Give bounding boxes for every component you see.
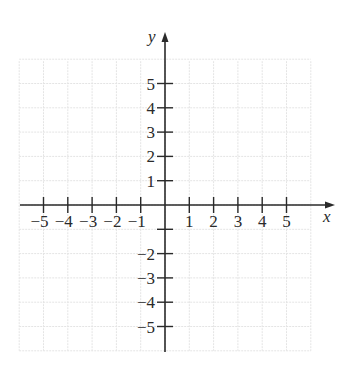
y-tick-label: 5	[147, 75, 156, 94]
y-tick-label: 1	[147, 172, 156, 191]
x-tick-label: −5	[30, 212, 48, 231]
x-tick-label: 3	[234, 212, 243, 231]
x-tick-label: 2	[209, 212, 218, 231]
y-tick-label: −2	[137, 245, 155, 264]
y-tick-label: 2	[147, 147, 156, 166]
y-tick-label: 4	[147, 99, 156, 118]
y-tick-label: −4	[137, 293, 156, 312]
x-tick-label: −3	[79, 212, 97, 231]
x-tick-label: 5	[282, 212, 291, 231]
y-tick-label: −3	[137, 269, 155, 288]
y-axis-label: y	[146, 27, 156, 46]
coordinate-plane: x y −5−4−3−2−112345 54321−2−3−4−5	[0, 0, 345, 366]
y-tick-label: 3	[147, 123, 156, 142]
y-axis-arrow-icon	[162, 32, 169, 42]
x-ticks: −5−4−3−2−112345	[30, 197, 290, 231]
x-tick-label: −4	[55, 212, 74, 231]
axes: x y	[20, 27, 335, 352]
x-axis-label: x	[322, 207, 331, 226]
x-tick-label: −1	[128, 212, 146, 231]
x-tick-label: −2	[103, 212, 121, 231]
x-tick-label: 1	[185, 212, 194, 231]
x-tick-label: 4	[258, 212, 267, 231]
y-tick-label: −5	[137, 318, 155, 337]
